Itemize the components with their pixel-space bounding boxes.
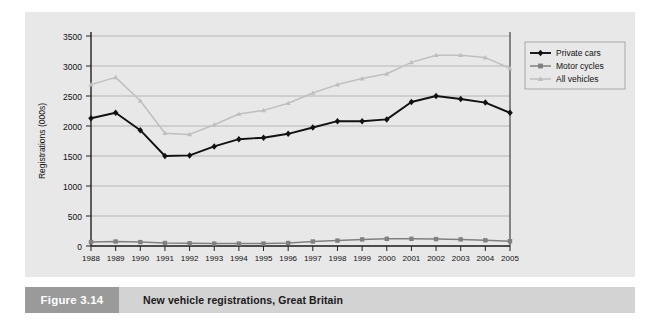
marker-diamond-private-cars — [285, 131, 291, 137]
marker-diamond-private-cars — [335, 118, 341, 124]
y-tick-label: 2500 — [63, 92, 82, 102]
x-tick-label: 2003 — [452, 254, 470, 263]
x-tick-label: 1991 — [156, 254, 174, 263]
y-tick-label: 500 — [68, 212, 82, 222]
marker-diamond-private-cars — [187, 152, 193, 158]
y-tick-label: 1500 — [63, 152, 82, 162]
x-tick-label: 1996 — [279, 254, 297, 263]
x-tick-label: 2000 — [378, 254, 396, 263]
figure-caption-text: New vehicle registrations, Great Britain — [143, 287, 343, 313]
marker-square-motor-cycles — [89, 240, 93, 244]
y-tick-label: 1000 — [63, 182, 82, 192]
marker-square-motor-cycles — [138, 240, 142, 244]
x-tick-label: 2001 — [403, 254, 421, 263]
marker-square-motor-cycles — [483, 238, 487, 242]
marker-square-motor-cycles — [113, 239, 117, 243]
marker-square-motor-cycles — [459, 237, 463, 241]
figure-number: Figure 3.14 — [25, 287, 119, 313]
marker-diamond-private-cars — [236, 136, 242, 142]
series-line-all-vehicles — [91, 55, 510, 134]
marker-diamond-private-cars — [458, 96, 464, 102]
x-tick-label: 2005 — [501, 254, 519, 263]
marker-square-motor-cycles — [261, 241, 265, 245]
legend-label: All vehicles — [556, 74, 599, 84]
y-tick-label: 2000 — [63, 122, 82, 132]
series-line-motor-cycles — [91, 239, 510, 244]
x-tick-label: 1995 — [255, 254, 273, 263]
legend-label: Private cars — [556, 48, 601, 58]
marker-square-motor-cycles — [187, 241, 191, 245]
marker-square-legend-1 — [538, 64, 543, 69]
y-axis-title: Registrations (000s) — [37, 103, 47, 179]
y-tick-label: 3000 — [63, 62, 82, 72]
x-tick-label: 1993 — [205, 254, 223, 263]
x-tick-label: 1989 — [107, 254, 125, 263]
marker-diamond-private-cars — [88, 115, 94, 121]
x-tick-label: 1997 — [304, 254, 322, 263]
marker-triangle-all-vehicles — [113, 75, 118, 79]
x-tick-label: 2002 — [427, 254, 445, 263]
x-tick-label: 1999 — [353, 254, 371, 263]
marker-square-motor-cycles — [212, 241, 216, 245]
marker-square-motor-cycles — [385, 237, 389, 241]
marker-diamond-private-cars — [310, 124, 316, 130]
x-tick-label: 1994 — [230, 254, 248, 263]
marker-diamond-private-cars — [483, 99, 489, 105]
marker-square-motor-cycles — [286, 241, 290, 245]
x-tick-label: 1990 — [131, 254, 149, 263]
figure-caption-bar: Figure 3.14 New vehicle registrations, G… — [25, 287, 635, 313]
marker-square-motor-cycles — [335, 238, 339, 242]
x-tick-label: 1992 — [181, 254, 199, 263]
marker-square-motor-cycles — [163, 241, 167, 245]
legend-label: Motor cycles — [556, 61, 604, 71]
marker-diamond-private-cars — [261, 134, 267, 140]
marker-square-motor-cycles — [360, 237, 364, 241]
x-tick-label: 1998 — [329, 254, 347, 263]
marker-square-motor-cycles — [508, 239, 512, 243]
marker-square-motor-cycles — [237, 241, 241, 245]
line-chart: 0500100015002000250030003500Registration… — [25, 12, 635, 277]
marker-diamond-private-cars — [359, 118, 365, 124]
marker-diamond-private-cars — [507, 110, 513, 116]
marker-square-motor-cycles — [434, 237, 438, 241]
marker-diamond-private-cars — [433, 93, 439, 99]
marker-square-motor-cycles — [409, 237, 413, 241]
y-tick-label: 0 — [77, 242, 82, 252]
x-tick-label: 1988 — [82, 254, 100, 263]
marker-square-motor-cycles — [311, 239, 315, 243]
x-tick-label: 2004 — [476, 254, 494, 263]
figure-container: 0500100015002000250030003500Registration… — [0, 0, 663, 334]
marker-diamond-private-cars — [211, 143, 217, 149]
y-tick-label: 3500 — [63, 32, 82, 42]
chart-panel: 0500100015002000250030003500Registration… — [25, 12, 635, 277]
